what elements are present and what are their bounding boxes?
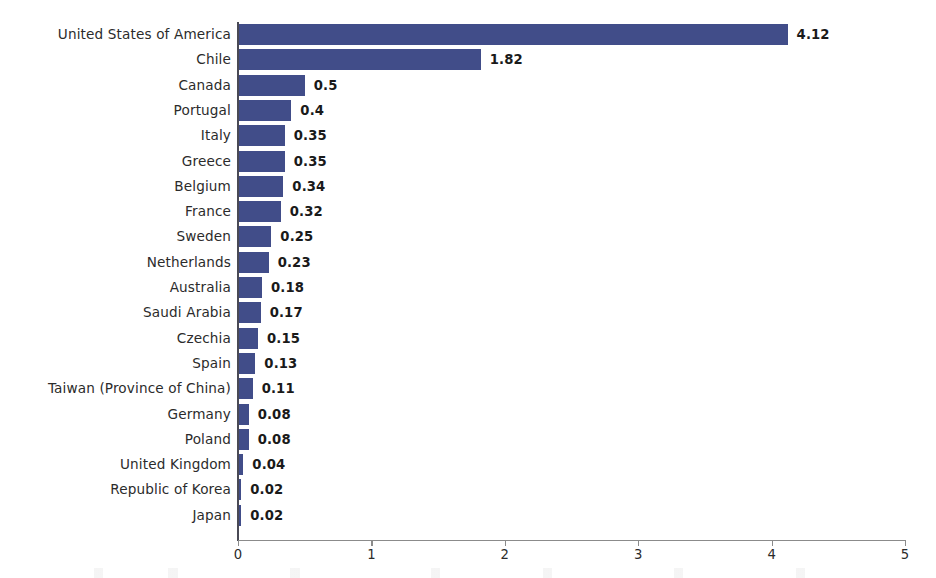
bar-row: Saudi Arabia0.17 [0,302,936,323]
bar [238,100,291,121]
bar-row: Chile1.82 [0,49,936,70]
bar-value-label: 0.08 [258,429,291,450]
bar-row: Spain0.13 [0,353,936,374]
bar-row: Germany0.08 [0,404,936,425]
bar [238,226,271,247]
bar-value-label: 0.17 [270,302,303,323]
bar [238,277,262,298]
bar-value-label: 0.23 [278,252,311,273]
bar-value-label: 0.5 [314,75,338,96]
bar-row: Sweden0.25 [0,226,936,247]
bar-value-label: 0.4 [300,100,324,121]
category-label: Sweden [176,226,231,247]
bar [238,125,285,146]
bar-row: Japan0.02 [0,505,936,526]
bar [238,176,283,197]
y-axis-line [237,22,239,541]
x-axis-tick-label: 0 [218,547,258,562]
category-label: France [185,201,231,222]
bar-row: United States of America4.12 [0,24,936,45]
bar [238,454,243,475]
x-axis-tick [772,540,773,546]
category-label: Spain [192,353,231,374]
bar-row: Italy0.35 [0,125,936,146]
x-axis-tick [371,540,372,546]
bar-value-label: 0.34 [292,176,325,197]
bar [238,24,788,45]
bar [238,353,255,374]
category-label: Saudi Arabia [143,302,231,323]
bar-row: United Kingdom0.04 [0,454,936,475]
category-label: Canada [178,75,231,96]
bar [238,75,305,96]
category-label: Greece [182,151,231,172]
bar-row: Greece0.35 [0,151,936,172]
bar-value-label: 0.25 [280,226,313,247]
x-axis-tick-label: 1 [351,547,391,562]
bar-value-label: 0.02 [250,479,283,500]
category-label: Chile [196,49,231,70]
category-label: Netherlands [147,252,231,273]
x-axis-tick [905,540,906,546]
bar-row: Czechia0.15 [0,328,936,349]
bar-row: Republic of Korea0.02 [0,479,936,500]
bar-value-label: 0.35 [294,125,327,146]
bar-value-label: 0.35 [294,151,327,172]
category-label: United States of America [58,24,231,45]
category-label: Australia [170,277,231,298]
bar-row: Australia0.18 [0,277,936,298]
category-label: Japan [192,505,231,526]
bar-value-label: 0.08 [258,404,291,425]
bar-row: Canada0.5 [0,75,936,96]
bar-row: Taiwan (Province of China)0.11 [0,378,936,399]
bar-chart: United States of America4.12Chile1.82Can… [0,0,936,578]
bar-value-label: 0.02 [250,505,283,526]
bar-value-label: 1.82 [490,49,523,70]
bar [238,328,258,349]
category-label: United Kingdom [120,454,231,475]
bar-value-label: 0.18 [271,277,304,298]
paper-edge-artifact [0,568,936,578]
x-axis-tick-label: 4 [752,547,792,562]
bar-row: Portugal0.4 [0,100,936,121]
category-label: Italy [201,125,231,146]
bar-value-label: 0.11 [262,378,295,399]
category-label: Czechia [177,328,231,349]
bar [238,252,269,273]
category-label: Germany [168,404,231,425]
bar [238,429,249,450]
bar-value-label: 0.04 [252,454,285,475]
bar-value-label: 0.32 [290,201,323,222]
bar-value-label: 4.12 [797,24,830,45]
category-label: Portugal [174,100,231,121]
x-axis-tick-label: 2 [485,547,525,562]
x-axis-line [238,540,906,541]
x-axis-tick-label: 5 [885,547,925,562]
bar [238,404,249,425]
bar [238,201,281,222]
bar [238,302,261,323]
x-axis-tick [238,540,239,546]
x-axis-tick [505,540,506,546]
category-label: Belgium [174,176,231,197]
bar-row: Netherlands0.23 [0,252,936,273]
bar-value-label: 0.15 [267,328,300,349]
bar [238,49,481,70]
bar [238,378,253,399]
category-label: Taiwan (Province of China) [48,378,231,399]
bar-row: Belgium0.34 [0,176,936,197]
x-axis-tick-label: 3 [618,547,658,562]
bar-value-label: 0.13 [264,353,297,374]
bar-row: Poland0.08 [0,429,936,450]
bar [238,151,285,172]
x-axis-tick [638,540,639,546]
bar-row: France0.32 [0,201,936,222]
category-label: Republic of Korea [110,479,231,500]
category-label: Poland [185,429,231,450]
